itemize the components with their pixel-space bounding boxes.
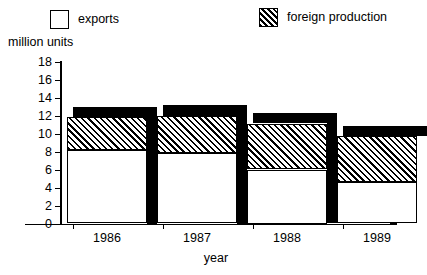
y-tick-label-18: 18 [30,56,52,69]
bar-segment-exports-1986[interactable] [67,150,147,224]
x-tick-mark-1 [163,224,164,229]
bar-side-shadow-1986 [147,107,157,224]
y-tick-label-10: 10 [30,128,52,141]
y-tick-label-8: 8 [30,146,52,159]
y-axis-line [60,61,62,225]
bar-segment-foreign-1987[interactable] [157,116,237,154]
x-tick-label-1987: 1987 [167,232,227,245]
x-tick-mark-0 [73,224,74,229]
x-tick-label-1986: 1986 [77,232,137,245]
y-tick-label-12: 12 [30,110,52,123]
bar-segment-foreign-1986[interactable] [67,117,147,149]
x-tick-mark-2 [253,224,254,229]
y-tick-label-2: 2 [30,200,52,213]
y-tick-label-4: 4 [30,182,52,195]
x-axis-line [25,224,397,226]
y-tick-label-14: 14 [30,92,52,105]
bar-side-shadow-1987 [237,105,247,224]
x-tick-label-1989: 1989 [347,232,407,245]
bar-side-shadow-1988 [327,113,337,223]
bar-top-shadow-1986 [73,107,157,117]
y-tick-label-16: 16 [30,74,52,87]
bar-segment-exports-1988[interactable] [247,170,327,224]
bar-segment-exports-1989[interactable] [337,182,417,223]
y-tick-label-6: 6 [30,164,52,177]
bar-segment-foreign-1989[interactable] [337,136,417,182]
bar-top-shadow-1989 [343,126,427,136]
bar-top-shadow-1988 [253,113,337,123]
bar-segment-foreign-1988[interactable] [247,124,327,170]
x-tick-label-1988: 1988 [257,232,317,245]
bar-top-shadow-1987 [163,105,247,116]
x-tick-mark-3 [343,224,344,229]
x-axis-title: year [176,252,256,265]
bar-segment-exports-1987[interactable] [157,153,237,223]
